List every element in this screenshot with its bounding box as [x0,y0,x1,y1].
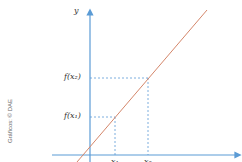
x-tick-x1: x₁ [111,157,119,162]
graph [0,0,242,162]
credit-text: Gráficos: © DAE [7,91,13,151]
y-tick-fx2: f(x₂) [64,72,81,81]
y-tick-fx1: f(x₁) [64,111,81,120]
x-tick-x2: x₂ [144,157,152,162]
function-line [77,10,207,162]
y-axis-label: y [74,6,79,15]
